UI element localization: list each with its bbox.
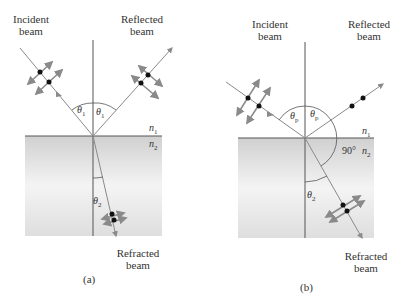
label-line: beam bbox=[245, 30, 295, 42]
ninety-degree-label: 90° bbox=[342, 145, 356, 156]
n2-label-b: n2 bbox=[362, 145, 371, 159]
theta-subscript: p bbox=[295, 116, 299, 124]
polarization-dot-icon bbox=[345, 209, 350, 214]
polarization-dot-icon bbox=[139, 81, 144, 86]
theta1-reflected-symbol: θ1 bbox=[96, 106, 104, 120]
refracted-beam-label-b: Refracted beam bbox=[336, 250, 396, 274]
polarization-dot-icon bbox=[257, 104, 262, 109]
polarization-dot-icon bbox=[112, 218, 117, 223]
n2-label-a: n2 bbox=[149, 138, 158, 152]
label-line: Incident bbox=[245, 18, 295, 30]
theta2-refracted-symbol-b: θ2 bbox=[307, 189, 315, 203]
theta1-incident-symbol: θ1 bbox=[77, 104, 85, 118]
n-subscript: 2 bbox=[367, 151, 371, 159]
n-subscript: 2 bbox=[154, 144, 158, 152]
label-line: Incident bbox=[6, 13, 56, 25]
thetap-reflected-symbol: θp bbox=[310, 108, 318, 122]
right-angle-value: 90° bbox=[342, 145, 356, 156]
theta-subscript: p bbox=[315, 114, 319, 122]
polarization-dot-icon bbox=[38, 70, 43, 75]
polarization-dot-icon bbox=[110, 212, 115, 217]
polarization-dot-icon bbox=[361, 96, 366, 101]
label-line: beam bbox=[336, 262, 396, 274]
incident-arrowhead-icon bbox=[267, 111, 274, 117]
n1-label-b: n1 bbox=[362, 125, 371, 139]
polarization-dot-icon bbox=[341, 203, 346, 208]
reflected-beam-label-a: Reflected beam bbox=[112, 13, 172, 37]
incident-arrowhead-icon bbox=[56, 91, 62, 97]
caption-a: (a) bbox=[83, 273, 95, 285]
n-subscript: 1 bbox=[367, 131, 371, 139]
label-line: Reflected bbox=[112, 13, 172, 25]
label-line: beam bbox=[6, 25, 56, 37]
n1-label-a: n1 bbox=[149, 122, 158, 136]
theta-subscript: 2 bbox=[98, 201, 102, 209]
polarization-dot-icon bbox=[350, 104, 355, 109]
n-subscript: 1 bbox=[154, 128, 158, 136]
label-line: beam bbox=[112, 25, 172, 37]
theta-subscript: 2 bbox=[312, 195, 316, 203]
refracted-beam-label-a: Refracted beam bbox=[108, 247, 168, 271]
label-line: Reflected bbox=[339, 18, 399, 30]
reflected-ray-a bbox=[93, 48, 172, 136]
polarization-dot-icon bbox=[146, 73, 151, 78]
incident-beam-label-b: Incident beam bbox=[245, 18, 295, 42]
label-line: beam bbox=[108, 259, 168, 271]
polarization-dot-icon bbox=[246, 96, 251, 101]
label-line: Refracted bbox=[108, 247, 168, 259]
theta2-refracted-symbol: θ2 bbox=[93, 195, 101, 209]
label-line: Refracted bbox=[336, 250, 396, 262]
theta-subscript: 1 bbox=[101, 112, 105, 120]
thetap-incident-symbol: θp bbox=[290, 110, 298, 124]
polarization-dot-icon bbox=[47, 80, 52, 85]
caption-b: (b) bbox=[300, 281, 313, 293]
theta-subscript: 1 bbox=[82, 110, 86, 118]
label-line: beam bbox=[339, 30, 399, 42]
reflected-beam-label-b: Reflected beam bbox=[339, 18, 399, 42]
panel-b bbox=[226, 42, 383, 238]
incident-beam-label-a: Incident beam bbox=[6, 13, 56, 37]
